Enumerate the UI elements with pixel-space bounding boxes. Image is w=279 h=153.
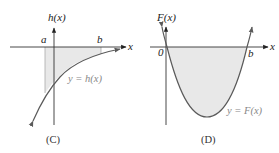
panel-d-y-axis-label: F(x): [156, 11, 176, 24]
panel-d-caption: (D): [201, 134, 216, 146]
panel-c-curve-label: y = h(x): [67, 73, 102, 85]
panel-d-curve-label: y = F(x): [226, 105, 263, 117]
panel-d-x-axis-label: x: [269, 40, 275, 52]
figure-canvas: h(x) x a b y = h(x) (C) F(x) x 0 b y = F…: [0, 0, 279, 153]
panel-d-zero-label: 0: [158, 46, 164, 58]
panel-c-a-label: a: [41, 33, 47, 45]
panel-d-b-label: b: [248, 47, 254, 59]
panel-c: h(x) x a b y = h(x) (C): [10, 11, 133, 146]
panel-c-caption: (C): [46, 134, 61, 146]
panel-d: F(x) x 0 b y = F(x) (D): [150, 11, 275, 146]
panel-c-x-axis-label: x: [127, 40, 133, 52]
panel-c-b-label: b: [97, 33, 103, 45]
panel-c-shaded-region: [45, 47, 101, 93]
panel-c-y-axis-label: h(x): [48, 11, 66, 24]
